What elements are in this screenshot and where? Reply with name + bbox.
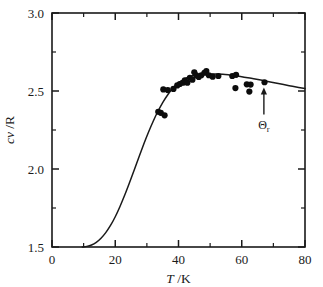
y-tick-label-3.0: 3.0 — [28, 6, 44, 21]
data-point — [246, 89, 252, 95]
x-axis-minor-ticks — [84, 13, 274, 247]
x-axis-tick-labels: 020406080 — [49, 252, 312, 267]
theta-symbol: Θ — [258, 118, 267, 132]
data-point — [233, 72, 239, 78]
x-tick-label-0: 0 — [49, 252, 56, 267]
data-point — [210, 74, 216, 80]
x-tick-label-60: 60 — [235, 252, 248, 267]
x-tick-label-40: 40 — [172, 252, 185, 267]
data-point — [232, 85, 238, 91]
theta-r-annotation: Θr — [258, 88, 270, 134]
theta-r-arrow-head — [261, 88, 267, 95]
theoretical-curve — [82, 74, 305, 247]
data-point — [261, 79, 267, 85]
cv-vs-temperature-chart: 020406080 1.52.02.53.0 Θr T /K cv /R — [0, 0, 323, 287]
y-axis-title-unit: /R — [2, 116, 17, 132]
y-axis-title-symbol: cv — [2, 132, 17, 144]
x-tick-label-80: 80 — [299, 252, 312, 267]
data-point — [165, 87, 171, 93]
figure-container: 020406080 1.52.02.53.0 Θr T /K cv /R — [0, 0, 323, 287]
y-tick-label-2.0: 2.0 — [28, 162, 44, 177]
data-point — [161, 112, 167, 118]
data-point — [248, 82, 254, 88]
y-tick-label-1.5: 1.5 — [28, 240, 44, 255]
theta-subscript: r — [267, 124, 270, 134]
data-point — [215, 73, 221, 79]
x-tick-label-20: 20 — [109, 252, 122, 267]
y-tick-label-2.5: 2.5 — [28, 84, 44, 99]
x-axis-title: T /K — [166, 271, 191, 286]
data-point-group — [155, 68, 267, 119]
theta-r-label: Θr — [258, 118, 270, 134]
x-axis-title-unit: /K — [174, 271, 191, 286]
y-axis-tick-labels: 1.52.02.53.0 — [28, 6, 44, 255]
y-axis-title: cv /R — [2, 116, 17, 144]
